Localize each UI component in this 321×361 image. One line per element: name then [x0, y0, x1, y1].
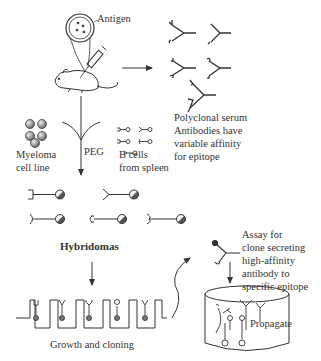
peg-label: PEG [84, 146, 104, 159]
hybridomas-label: Hybridomas [60, 240, 119, 253]
myeloma-label-2: cell line [16, 162, 50, 175]
syringe-icon [80, 46, 106, 78]
polyclonal-label-1: Polyclonal serum [174, 112, 247, 125]
assay-label-5: specific epitope [242, 281, 308, 294]
culture-plate-icon [16, 300, 167, 329]
assay-label-1: Assay for [242, 229, 283, 242]
hybridoma-cells-icon [28, 189, 186, 224]
antigen-dish-icon [66, 14, 98, 72]
polyclonal-label-4: for epitope [174, 151, 220, 164]
growth-label: Growth and cloning [50, 339, 134, 352]
myeloma-label-1: Myeloma [16, 149, 56, 162]
diagram-canvas [0, 0, 321, 361]
myeloma-cells-icon [26, 120, 47, 148]
propagate-label: Propagate [250, 318, 292, 331]
assay-label-2: clone secreting [242, 242, 305, 255]
assay-label-4: antibody to [242, 268, 290, 281]
assay-antibody-icon [213, 241, 241, 265]
polyclonal-label-2: Antibodies have [174, 125, 243, 138]
bcells-label-1: B cells [119, 149, 148, 162]
assay-label-3: high-affinity [242, 255, 295, 268]
fusion-arrow [62, 96, 100, 175]
antigen-label: Antigen [97, 13, 131, 26]
bcells-label-2: from spleen [119, 162, 169, 175]
polyclonal-label-3: variable affinity [174, 138, 241, 151]
polyclonal-antibodies-icon [169, 20, 231, 112]
arrow-to-assay [172, 258, 190, 318]
mouse-icon [55, 69, 118, 93]
